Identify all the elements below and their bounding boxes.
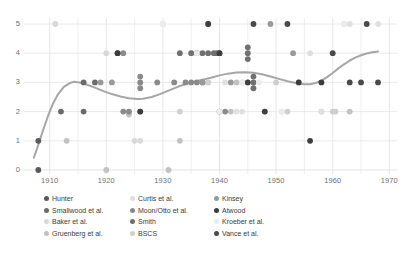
data-point [279,109,285,115]
data-point [200,50,206,56]
legend-marker-icon [130,196,135,201]
legend-item[interactable]: Vance et al. [214,228,306,240]
data-point [333,109,339,115]
data-point [217,109,223,115]
data-point [137,74,143,80]
data-point [251,74,257,80]
legend-marker-icon [214,219,219,224]
chart-legend: HunterSmallwood et al.Baker et al.Gruenb… [44,193,344,249]
data-point [290,50,296,56]
legend-item[interactable]: Kroeber et al. [214,216,306,228]
data-point [171,80,177,86]
data-point [52,21,58,27]
data-point [319,80,325,86]
legend-marker-icon [130,208,135,213]
data-point [228,109,234,115]
x-tick-1960: 1960 [313,176,353,185]
data-point [234,80,240,86]
data-point [347,21,353,27]
legend-marker-icon [44,196,49,201]
chart-figure: 012345 1910192019301940195019601970 Hunt… [0,0,405,254]
legend-item[interactable]: Baker et al. [44,216,130,228]
data-point [58,109,64,115]
data-point [307,50,313,56]
data-point [177,50,183,56]
data-point [375,21,381,27]
data-point [245,44,251,50]
legend-item[interactable]: Kinsey [214,193,306,205]
data-point [251,21,257,27]
data-point [239,80,245,86]
x-tick-1930: 1930 [143,176,183,185]
x-tick-1920: 1920 [86,176,126,185]
data-point [245,80,251,86]
data-point [137,109,143,115]
x-tick-1970: 1970 [369,176,405,185]
legend-item[interactable]: Atwood [214,205,306,217]
data-point [120,50,126,56]
legend-marker-icon [44,208,49,213]
data-point [251,85,257,91]
data-point [256,80,262,86]
x-tick-1950: 1950 [256,176,296,185]
legend-item[interactable]: Gruenberg et al. [44,228,130,240]
data-point [364,21,370,27]
data-point [154,80,160,86]
legend-marker-icon [44,231,49,236]
data-point [285,21,291,27]
legend-item[interactable]: Moon/Otto et al. [130,205,214,217]
legend-column-1: HunterSmallwood et al.Baker et al.Gruenb… [44,193,130,239]
data-points-layer [0,0,405,190]
data-point [205,80,211,86]
legend-item-label: Smith [138,216,156,228]
data-point [262,109,268,115]
scatter-plot-area: 012345 1910192019301940195019601970 [0,0,405,190]
legend-marker-icon [130,219,135,224]
legend-item[interactable]: Smallwood et al. [44,205,130,217]
data-point [183,80,189,86]
data-point [251,80,257,86]
data-point [222,80,228,86]
legend-item-label: Hunter [52,193,73,205]
legend-item-label: Curtis et al. [138,193,173,205]
legend-column-2: Curtis et al.Moon/Otto et al.SmithBSCS [130,193,214,239]
data-point [239,109,245,115]
legend-item-label: Smallwood et al. [52,205,103,217]
y-tick-1: 1 [2,136,20,145]
legend-item[interactable]: Hunter [44,193,130,205]
data-point [296,80,302,86]
data-point [81,80,87,86]
legend-item-label: Gruenberg et al. [52,228,103,240]
data-point [194,80,200,86]
data-point [92,80,98,86]
data-point [268,21,274,27]
data-point [205,21,211,27]
data-point [341,21,347,27]
legend-marker-icon [214,231,219,236]
data-point [222,109,228,115]
data-point [177,109,183,115]
legend-item[interactable]: BSCS [130,228,214,240]
data-point [98,80,104,86]
data-point [81,109,87,115]
legend-column-3: KinseyAtwoodKroeber et al.Vance et al. [214,193,306,239]
legend-marker-icon [214,208,219,213]
data-point [103,167,109,173]
data-point [217,50,223,56]
data-point [115,50,121,56]
legend-item[interactable]: Curtis et al. [130,193,214,205]
data-point [358,80,364,86]
x-tick-1940: 1940 [199,176,239,185]
data-point [319,109,325,115]
data-point [285,109,291,115]
data-point [194,50,200,56]
data-point [137,138,143,144]
legend-marker-icon [214,196,219,201]
data-point [103,50,109,56]
data-point [245,50,251,56]
data-point [347,109,353,115]
y-tick-5: 5 [2,19,20,28]
legend-item-label: BSCS [138,228,157,240]
legend-item[interactable]: Smith [130,216,214,228]
data-point [166,167,172,173]
